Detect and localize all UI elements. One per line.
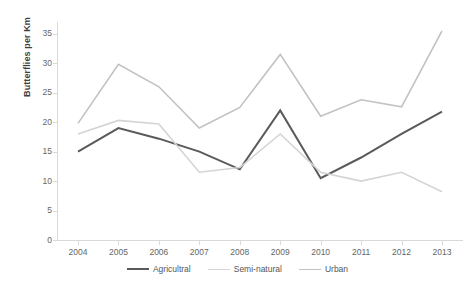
x-axis-tick-label: 2005 [95, 248, 141, 257]
x-axis-tick-mark [159, 241, 160, 245]
series-line [78, 110, 442, 178]
x-axis-tick-mark [442, 241, 443, 245]
y-axis-tick-mark [53, 122, 57, 123]
legend-item[interactable]: Urban [299, 265, 348, 274]
x-axis-tick-label: 2013 [419, 248, 465, 257]
x-axis-tick-mark [361, 241, 362, 245]
legend-item[interactable]: Agricultral [127, 265, 191, 274]
y-axis-tick-label: 35 [30, 29, 52, 38]
y-axis-tick-mark [53, 34, 57, 35]
series-line [78, 31, 442, 128]
y-axis-tick-mark [53, 63, 57, 64]
legend-item[interactable]: Semi-natural [208, 265, 282, 274]
y-axis-tick-mark [53, 93, 57, 94]
y-axis-tick-label: 5 [30, 206, 52, 215]
x-axis-tick-label: 2008 [217, 248, 263, 257]
y-axis-tick-label: 0 [30, 236, 52, 245]
legend-swatch-icon [208, 269, 230, 270]
x-axis-tick-mark [118, 241, 119, 245]
x-axis-tick-mark [321, 241, 322, 245]
line-chart: Butterflies per Km 05101520253035 Agricu… [0, 0, 475, 293]
x-axis-tick-mark [280, 241, 281, 245]
y-axis-tick-label: 10 [30, 177, 52, 186]
y-axis-tick-label: 20 [30, 118, 52, 127]
y-axis-tick-labels: 05101520253035 [26, 22, 52, 240]
y-axis-tick-label: 30 [30, 59, 52, 68]
series-canvas [58, 22, 462, 240]
x-axis-tick-mark [240, 241, 241, 245]
y-axis-tick-label: 25 [30, 88, 52, 97]
x-axis-tick-label: 2004 [55, 248, 101, 257]
legend-item-label: Urban [325, 265, 348, 274]
x-axis-tick-mark [199, 241, 200, 245]
y-axis-tick-mark [53, 240, 57, 241]
legend-swatch-icon [127, 268, 149, 270]
chart-legend: AgricultralSemi-naturalUrban [0, 265, 475, 274]
legend-item-label: Semi-natural [234, 265, 282, 274]
x-axis-tick-label: 2006 [136, 248, 182, 257]
x-axis-tick-label: 2011 [338, 248, 384, 257]
x-axis-tick-mark [78, 241, 79, 245]
x-axis-tick-label: 2012 [379, 248, 425, 257]
legend-swatch-icon [299, 269, 321, 270]
y-axis-tick-mark [53, 181, 57, 182]
legend-item-label: Agricultral [153, 265, 191, 274]
y-axis-tick-mark [53, 152, 57, 153]
x-axis-tick-label: 2009 [257, 248, 303, 257]
y-axis-tick-label: 15 [30, 147, 52, 156]
x-axis-tick-mark [402, 241, 403, 245]
y-axis-tick-mark [53, 211, 57, 212]
x-axis-tick-label: 2007 [176, 248, 222, 257]
plot-area [58, 22, 462, 240]
x-axis-tick-label: 2010 [298, 248, 344, 257]
